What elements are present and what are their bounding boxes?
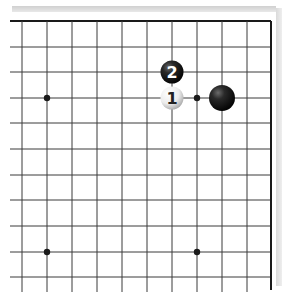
hoshi-point	[194, 95, 200, 101]
go-board[interactable]: 21	[0, 0, 290, 295]
hoshi-point	[194, 249, 200, 255]
move-number-label: 2	[166, 63, 177, 82]
hoshi-point	[44, 249, 50, 255]
black-stone[interactable]: 2	[161, 61, 184, 84]
board-grid: 21	[0, 0, 290, 295]
stone-body	[209, 85, 235, 111]
black-stone[interactable]	[209, 85, 235, 111]
white-stone[interactable]: 1	[161, 87, 184, 110]
move-number-label: 1	[166, 89, 177, 108]
hoshi-point	[44, 95, 50, 101]
